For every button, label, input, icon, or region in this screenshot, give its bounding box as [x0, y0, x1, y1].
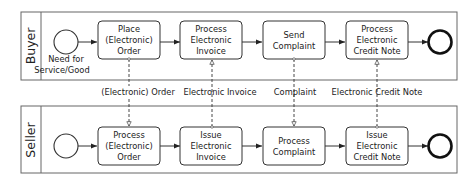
task-process-complaint: Process Complaint [263, 127, 325, 165]
message-label-invoice: Electronic Invoice [183, 87, 256, 97]
task-place-order: Place (Electronic) Order [98, 21, 160, 59]
buyer-end-event [429, 31, 452, 54]
svg-text:Invoice: Invoice [196, 152, 226, 162]
svg-text:Complaint: Complaint [273, 147, 316, 157]
buyer-start-label: Service/Good [34, 65, 89, 75]
task-process-order: Process (Electronic) Order [98, 127, 160, 165]
svg-text:Order: Order [117, 152, 141, 162]
svg-text:Invoice: Invoice [196, 46, 226, 56]
pool-label-buyer: Buyer [23, 27, 38, 65]
seller-start-event [54, 134, 78, 158]
message-label-credit-note: Electronic Credit Note [332, 87, 423, 97]
svg-text:Place: Place [118, 24, 140, 34]
task-process-credit-note: Process Electronic Credit Note [346, 21, 408, 59]
svg-text:Credit Note: Credit Note [353, 152, 400, 162]
svg-text:Process: Process [113, 130, 144, 140]
svg-text:Electronic: Electronic [191, 141, 232, 151]
svg-text:Issue: Issue [366, 130, 387, 140]
svg-text:Process: Process [195, 24, 226, 34]
svg-text:Electronic: Electronic [357, 35, 398, 45]
pool-label-seller: Seller [23, 121, 38, 157]
svg-text:(Electronic): (Electronic) [105, 35, 152, 45]
message-label-complaint: Complaint [274, 87, 317, 97]
buyer-start-event [54, 30, 78, 54]
task-issue-invoice: Issue Electronic Invoice [180, 127, 242, 165]
svg-text:Credit Note: Credit Note [353, 46, 400, 56]
bpmn-diagram: Buyer Seller Need for Service/Good Place… [0, 0, 475, 183]
svg-text:Order: Order [117, 46, 141, 56]
buyer-start-label: Need for [48, 54, 84, 64]
svg-text:Issue: Issue [200, 130, 221, 140]
svg-text:Complaint: Complaint [273, 41, 316, 51]
message-label-order: (Electronic) Order [101, 87, 175, 97]
svg-text:Electronic: Electronic [357, 141, 398, 151]
svg-text:Send: Send [284, 30, 305, 40]
svg-text:Electronic: Electronic [191, 35, 232, 45]
svg-text:Process: Process [278, 136, 309, 146]
svg-text:Process: Process [361, 24, 392, 34]
task-issue-credit-note: Issue Electronic Credit Note [346, 127, 408, 165]
seller-end-event [429, 135, 452, 158]
task-send-complaint: Send Complaint [263, 21, 325, 59]
svg-text:(Electronic): (Electronic) [105, 141, 152, 151]
task-process-invoice: Process Electronic Invoice [180, 21, 242, 59]
